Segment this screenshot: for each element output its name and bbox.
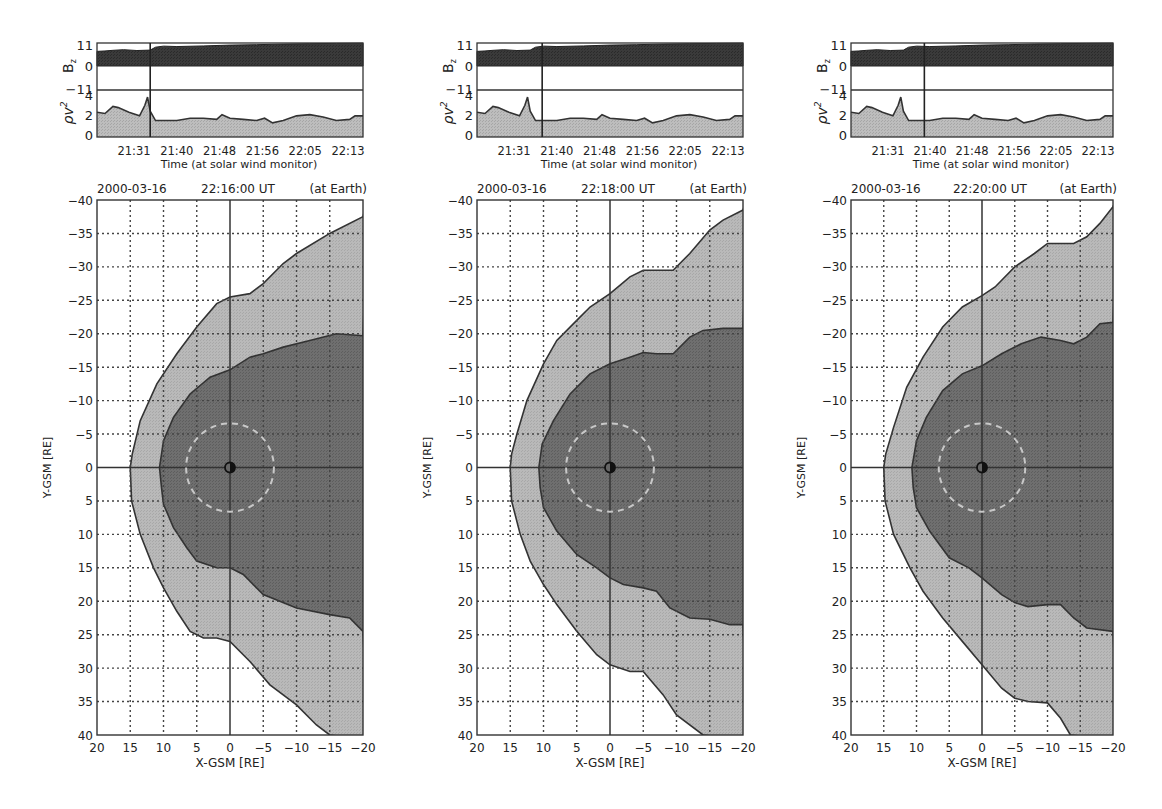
y-tick: 30 [78, 662, 93, 676]
y-tick: −15 [822, 361, 847, 375]
y-tick: −10 [68, 394, 93, 408]
pdyn-tick: 2 [85, 108, 93, 123]
y-tick: −5 [829, 428, 847, 442]
y-tick: −25 [448, 294, 473, 308]
bz-area [477, 43, 743, 66]
y-tick: −25 [68, 294, 93, 308]
panel-location: (at Earth) [690, 182, 747, 196]
bz-label: Bz [814, 59, 832, 73]
x-tick: 0 [606, 741, 614, 755]
x-tick: −5 [634, 741, 652, 755]
y-tick: −15 [68, 361, 93, 375]
bz-tick: 0 [465, 59, 473, 74]
time-tick: 21:56 [997, 144, 1030, 158]
x-tick: 15 [123, 741, 138, 755]
y-tick: −10 [822, 394, 847, 408]
y-tick: 20 [458, 595, 473, 609]
x-tick: −15 [317, 741, 342, 755]
x-tick: −10 [284, 741, 309, 755]
panel-date: 2000-03-16 [851, 182, 921, 196]
y-tick: −30 [822, 260, 847, 274]
panel-date: 2000-03-16 [477, 182, 547, 196]
y-tick: −20 [68, 327, 93, 341]
y-tick: −15 [448, 361, 473, 375]
y-tick: −5 [75, 428, 93, 442]
x-axis-label: X-GSM [RE] [948, 756, 1017, 770]
time-tick: 22:05 [1039, 144, 1072, 158]
time-tick: 21:31 [117, 144, 150, 158]
y-tick: 15 [458, 561, 473, 575]
time-tick: 22:05 [669, 144, 702, 158]
x-tick: 20 [843, 741, 858, 755]
x-axis-label: X-GSM [RE] [576, 756, 645, 770]
pdyn-tick: 4 [839, 88, 847, 103]
y-tick: 15 [832, 561, 847, 575]
panel-time: 22:18:00 UT [581, 182, 655, 196]
pdyn-tick: 0 [839, 128, 847, 143]
panel-3: 110−11420Bzρv221:3121:4021:4821:5622:052… [795, 38, 1126, 770]
bz-label: Bz [440, 59, 458, 73]
pdyn-tick: 4 [85, 88, 93, 103]
x-tick: 0 [226, 741, 234, 755]
pdyn-tick: 2 [465, 108, 473, 123]
y-tick: −35 [68, 227, 93, 241]
time-axis-label: Time (at solar wind monitor) [160, 158, 317, 171]
y-tick: 35 [832, 695, 847, 709]
x-tick: 5 [193, 741, 201, 755]
x-tick: 15 [876, 741, 891, 755]
time-tick: 21:40 [913, 144, 946, 158]
x-tick: 5 [573, 741, 581, 755]
y-tick: 5 [465, 494, 473, 508]
x-tick: 10 [156, 741, 171, 755]
y-tick: 0 [465, 461, 473, 475]
time-tick: 22:13 [331, 144, 364, 158]
x-tick: −5 [254, 741, 272, 755]
y-tick: 5 [85, 494, 93, 508]
x-tick: −10 [664, 741, 689, 755]
y-tick: 25 [832, 628, 847, 642]
x-tick: 20 [469, 741, 484, 755]
x-tick: 20 [89, 741, 104, 755]
y-axis-label: Y-GSM [RE] [795, 437, 808, 499]
y-tick: 10 [458, 528, 473, 542]
figure-stage: 110−11420Bzρv221:3121:4021:4821:5622:052… [0, 0, 1162, 809]
time-tick: 21:48 [583, 144, 616, 158]
x-tick: 0 [978, 741, 986, 755]
y-tick: 0 [839, 461, 847, 475]
time-tick: 21:40 [160, 144, 193, 158]
x-tick: 5 [945, 741, 953, 755]
y-tick: 20 [832, 595, 847, 609]
time-tick: 21:48 [203, 144, 236, 158]
panel-location: (at Earth) [310, 182, 367, 196]
time-axis-label: Time (at solar wind monitor) [912, 158, 1069, 171]
time-tick: 21:56 [246, 144, 279, 158]
panel-1: 110−11420Bzρv221:3121:4021:4821:5622:052… [41, 38, 376, 770]
pdyn-tick: 0 [85, 128, 93, 143]
bz-area [97, 43, 363, 66]
gsm-panel: 2000-03-1622:18:00 UT(at Earth)−40−35−30… [421, 182, 756, 770]
x-tick: −20 [1100, 741, 1125, 755]
figure-canvas: 110−11420Bzρv221:3121:4021:4821:5622:052… [0, 0, 1162, 809]
y-tick: −40 [822, 194, 847, 208]
gsm-panel: 2000-03-1622:20:00 UT(at Earth)−40−35−30… [795, 182, 1126, 770]
time-tick: 22:05 [289, 144, 322, 158]
y-tick: −5 [455, 428, 473, 442]
x-tick: 15 [503, 741, 518, 755]
solar-wind-panel: 110−11420Bzρv221:3121:4021:4821:5622:052… [813, 38, 1115, 171]
panel-location: (at Earth) [1060, 182, 1117, 196]
pdyn-label: ρv2 [59, 101, 76, 124]
pdyn-tick: 2 [839, 108, 847, 123]
y-tick: −20 [822, 327, 847, 341]
y-tick: −25 [822, 294, 847, 308]
panel-time: 22:16:00 UT [201, 182, 275, 196]
x-tick: 10 [909, 741, 924, 755]
pdyn-label: ρv2 [439, 101, 456, 124]
x-axis-label: X-GSM [RE] [196, 756, 265, 770]
y-tick: 35 [458, 695, 473, 709]
time-axis-label: Time (at solar wind monitor) [540, 158, 697, 171]
x-tick: −20 [730, 741, 755, 755]
y-tick: 25 [458, 628, 473, 642]
gsm-panel: 2000-03-1622:16:00 UT(at Earth)−40−35−30… [41, 182, 376, 770]
pdyn-tick: 4 [465, 88, 473, 103]
time-tick: 21:56 [626, 144, 659, 158]
